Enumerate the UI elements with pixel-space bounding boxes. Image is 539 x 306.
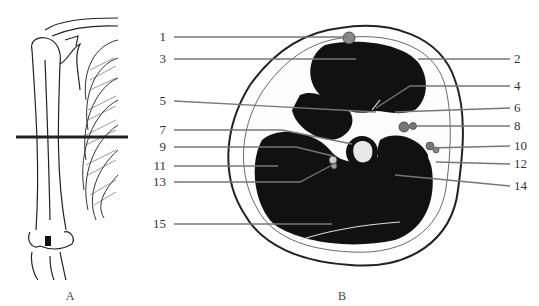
- humerus-head: [32, 38, 61, 64]
- panel-a-caption: A: [66, 289, 75, 303]
- elbow: [29, 232, 74, 249]
- label-5: 5: [160, 93, 167, 108]
- label-12: 12: [514, 156, 527, 171]
- label-4: 4: [514, 78, 521, 93]
- basilic-vein: [426, 142, 434, 150]
- cephalic-vein: [343, 32, 355, 44]
- label-7: 7: [160, 122, 167, 137]
- label-9: 9: [160, 139, 167, 154]
- olecranon-fossa: [45, 236, 51, 246]
- label-13: 13: [153, 174, 166, 189]
- label-15: 15: [153, 216, 166, 231]
- label-10: 10: [514, 138, 527, 153]
- label-11: 11: [153, 158, 166, 173]
- label-6: 6: [514, 100, 521, 115]
- humerus: [32, 50, 38, 230]
- brachial-artery: [399, 122, 409, 132]
- label-2: 2: [514, 51, 521, 66]
- panel-b-cross-section: [228, 26, 463, 266]
- label-3: 3: [160, 51, 167, 66]
- label-8: 8: [514, 118, 521, 133]
- radial-nerve: [329, 156, 337, 164]
- rib-cage: [83, 40, 118, 220]
- label-1: 1: [160, 29, 167, 44]
- panel-a-skeleton: A: [16, 18, 128, 303]
- panel-b-caption: B: [338, 289, 346, 303]
- humerus-marrow: [353, 141, 372, 162]
- label-14: 14: [514, 178, 528, 193]
- anatomy-figure: A: [0, 0, 539, 306]
